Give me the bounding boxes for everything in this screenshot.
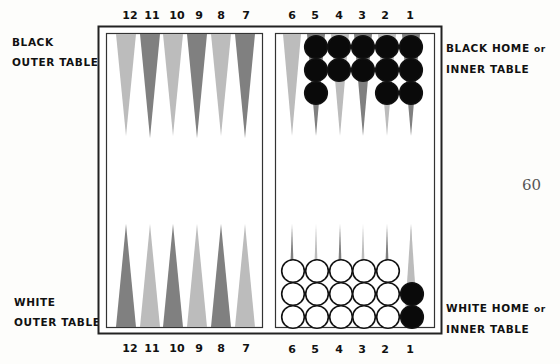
white-checker-point-4[interactable] [330, 306, 353, 329]
black-checker-point-4[interactable] [328, 36, 351, 59]
white-checker-point-4[interactable] [330, 260, 353, 283]
white-checker-point-5[interactable] [306, 306, 329, 329]
black-checker-point-2[interactable] [376, 82, 399, 105]
point-number-top-right: 2 [375, 9, 395, 22]
point-number-top-right: 4 [329, 9, 349, 22]
point-number-bottom-left: 12 [120, 342, 140, 355]
white-checker-point-2[interactable] [377, 260, 400, 283]
point-number-bottom-right: 2 [375, 343, 395, 356]
point-number-bottom-left: 8 [211, 342, 231, 355]
point-number-top-left: 7 [236, 9, 256, 22]
black-checker-white-point-1[interactable] [401, 283, 424, 306]
black-checker-point-1[interactable] [400, 82, 423, 105]
point-number-top-left: 9 [189, 9, 209, 22]
point-number-bottom-left: 10 [167, 342, 187, 355]
black-checker-point-1[interactable] [400, 36, 423, 59]
black-checker-point-3[interactable] [352, 59, 375, 82]
point-number-bottom-right: 3 [352, 343, 372, 356]
black-checker-point-3[interactable] [352, 36, 375, 59]
white-checker-point-6[interactable] [282, 306, 305, 329]
point-number-bottom-left: 7 [236, 342, 256, 355]
point-number-top-left: 12 [120, 9, 140, 22]
white-checker-point-3[interactable] [353, 306, 376, 329]
white-checker-point-6[interactable] [282, 260, 305, 283]
white-checker-point-3[interactable] [353, 283, 376, 306]
point-number-bottom-right: 1 [400, 343, 420, 356]
point-number-top-right: 1 [400, 9, 420, 22]
point-number-top-right: 6 [282, 9, 302, 22]
white-checker-point-6[interactable] [282, 283, 305, 306]
backgammon-board [0, 0, 560, 364]
point-number-bottom-left: 9 [189, 342, 209, 355]
point-number-top-left: 8 [211, 9, 231, 22]
black-checker-point-5[interactable] [305, 59, 328, 82]
point-number-top-right: 3 [352, 9, 372, 22]
white-checker-point-5[interactable] [306, 283, 329, 306]
point-number-bottom-left: 11 [142, 342, 162, 355]
black-checker-point-5[interactable] [305, 36, 328, 59]
white-checker-point-2[interactable] [377, 306, 400, 329]
black-checker-point-4[interactable] [328, 59, 351, 82]
white-checker-point-2[interactable] [377, 283, 400, 306]
white-checker-point-5[interactable] [306, 260, 329, 283]
point-number-bottom-right: 5 [305, 343, 325, 356]
point-number-top-right: 5 [305, 9, 325, 22]
black-checker-point-2[interactable] [376, 59, 399, 82]
point-number-top-left: 10 [167, 9, 187, 22]
black-checker-point-5[interactable] [305, 82, 328, 105]
point-number-bottom-right: 4 [329, 343, 349, 356]
black-checker-point-1[interactable] [400, 59, 423, 82]
white-checker-point-3[interactable] [353, 260, 376, 283]
point-number-top-left: 11 [142, 9, 162, 22]
white-checker-point-4[interactable] [330, 283, 353, 306]
black-checker-white-point-1[interactable] [401, 306, 424, 329]
point-number-bottom-right: 6 [282, 343, 302, 356]
black-checker-point-2[interactable] [376, 36, 399, 59]
